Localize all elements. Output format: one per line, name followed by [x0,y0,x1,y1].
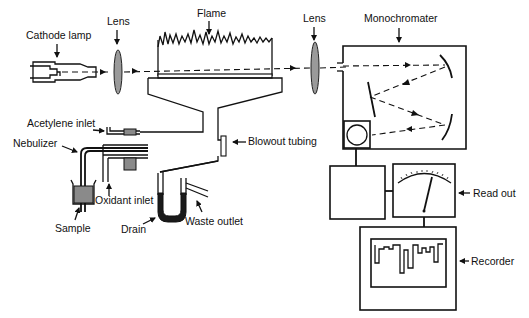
lens-2 [311,42,319,94]
label-acetylene-inlet: Acetylene inlet [27,117,95,129]
label-monochromater: Monochromater [364,12,438,24]
meter-readout [393,164,455,217]
label-read-out: Read out [473,187,516,199]
arrow-waste-outlet [197,201,202,212]
monochromator [337,46,466,149]
label-sample: Sample [55,222,91,234]
arrow-acetylene-inlet [93,130,104,131]
label-lens-1: Lens [107,15,130,27]
label-recorder: Recorder [471,255,515,267]
flame-icon [158,30,272,47]
chart-recorder [360,227,456,310]
arrow-sample [75,208,79,220]
arrow-drain [143,218,155,224]
aas-diagram: Cathode lamp Lens Flame Blowout tubing [0,0,529,318]
label-nebulizer: Nebulizer [13,137,58,149]
lens-1 [114,50,122,94]
label-lens-2: Lens [303,12,326,24]
sample-beaker [71,180,96,204]
amplifier-box [330,166,385,219]
arrow-nebulizer [62,146,77,152]
label-oxidant-inlet: Oxidant inlet [95,194,153,206]
label-waste-outlet: Waste outlet [185,215,243,227]
label-drain: Drain [121,223,146,235]
label-flame: Flame [197,7,226,19]
label-cathode-lamp: Cathode lamp [26,29,92,41]
label-blowout-tubing: Blowout tubing [248,135,317,147]
burner [140,30,282,172]
